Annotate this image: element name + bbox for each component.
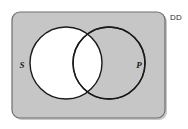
venn-diagram-canvas: S P DD [0, 0, 188, 129]
set-circle-p-outline [73, 27, 145, 99]
set-label-p: P [136, 60, 142, 70]
venn-diagram-figure: S P DD [0, 0, 188, 129]
universe-label: DD [170, 13, 182, 22]
set-label-s: S [19, 60, 24, 70]
